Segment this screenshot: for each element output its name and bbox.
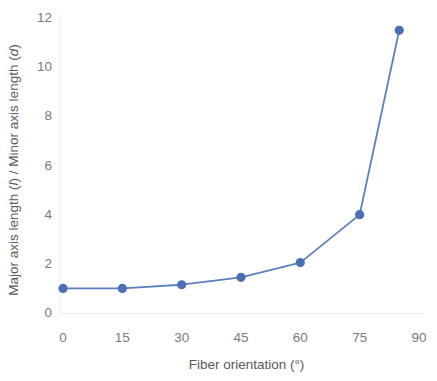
x-tick-label-15: 15 bbox=[102, 331, 142, 345]
y-tick-label-10: 10 bbox=[18, 60, 52, 74]
y-axis-symbol-l: l bbox=[6, 182, 21, 185]
chart-container: Major axis length (l) / Minor axis lengt… bbox=[0, 0, 437, 381]
y-tick-label-2: 2 bbox=[18, 257, 52, 271]
y-tick-label-0: 0 bbox=[18, 306, 52, 320]
x-axis-baseline bbox=[59, 313, 424, 314]
data-point-30deg bbox=[177, 280, 186, 289]
y-axis-title-prefix: Major axis length ( bbox=[6, 185, 21, 295]
x-axis-title: Fiber orientation (°) bbox=[56, 357, 437, 372]
y-axis-symbol-d: d bbox=[6, 49, 21, 57]
x-tick-label-90: 90 bbox=[399, 331, 437, 345]
y-axis-title-suffix: ) bbox=[6, 44, 21, 49]
data-point-45deg bbox=[236, 273, 245, 282]
y-axis-line bbox=[59, 14, 60, 313]
x-tick-label-45: 45 bbox=[221, 331, 261, 345]
x-tick-label-75: 75 bbox=[340, 331, 380, 345]
x-tick-label-60: 60 bbox=[280, 331, 320, 345]
y-tick-label-6: 6 bbox=[18, 159, 52, 173]
plot-area bbox=[0, 0, 437, 381]
series-line-aspect-ratio bbox=[0, 0, 437, 381]
x-tick-label-0: 0 bbox=[43, 331, 83, 345]
series-polyline bbox=[63, 30, 399, 288]
data-point-85deg bbox=[395, 26, 404, 35]
data-point-75deg bbox=[355, 210, 364, 219]
data-point-15deg bbox=[118, 284, 127, 293]
y-tick-label-4: 4 bbox=[18, 208, 52, 222]
y-tick-label-12: 12 bbox=[18, 11, 52, 25]
y-tick-label-8: 8 bbox=[18, 110, 52, 124]
data-point-60deg bbox=[296, 258, 305, 267]
x-tick-label-30: 30 bbox=[162, 331, 202, 345]
